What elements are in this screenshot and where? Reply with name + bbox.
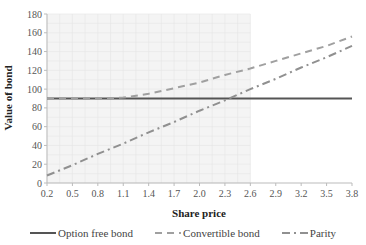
legend-item-parity: Parity	[282, 227, 336, 239]
svg-text:140: 140	[27, 46, 42, 57]
svg-text:60: 60	[32, 121, 42, 132]
svg-text:0.8: 0.8	[92, 188, 105, 199]
svg-text:80: 80	[32, 102, 42, 113]
x-axis-ticks: 0.20.50.81.11.41.72.02.32.62.93.23.53.8	[41, 183, 359, 199]
svg-text:20: 20	[32, 159, 42, 170]
svg-text:3.8: 3.8	[346, 188, 359, 199]
svg-text:3.5: 3.5	[320, 188, 333, 199]
svg-text:1.4: 1.4	[142, 188, 155, 199]
y-axis-ticks: 020406080100120140160180	[27, 9, 47, 189]
svg-text:40: 40	[32, 140, 42, 151]
legend-item-option-free-bond: Option free bond	[30, 227, 133, 239]
svg-text:0.5: 0.5	[66, 188, 79, 199]
x-axis-title: Share price	[172, 207, 226, 219]
svg-text:160: 160	[27, 27, 42, 38]
solid-line-swatch-icon	[30, 230, 56, 236]
svg-text:2.3: 2.3	[219, 188, 232, 199]
svg-text:100: 100	[27, 84, 42, 95]
svg-text:1.1: 1.1	[117, 188, 130, 199]
svg-text:180: 180	[27, 9, 42, 20]
svg-text:2.9: 2.9	[270, 188, 283, 199]
svg-text:1.7: 1.7	[168, 188, 181, 199]
dashed-line-swatch-icon	[155, 230, 181, 236]
legend-label: Convertible bond	[183, 227, 260, 239]
svg-text:0: 0	[37, 178, 42, 189]
legend-label: Option free bond	[58, 227, 133, 239]
svg-text:2.0: 2.0	[193, 188, 206, 199]
line-chart: 020406080100120140160180 0.20.50.81.11.4…	[0, 0, 366, 222]
svg-text:3.2: 3.2	[295, 188, 308, 199]
svg-text:2.6: 2.6	[244, 188, 257, 199]
legend-item-convertible-bond: Convertible bond	[155, 227, 260, 239]
dashdot-line-swatch-icon	[282, 230, 308, 236]
legend-label: Parity	[310, 227, 336, 239]
svg-text:120: 120	[27, 65, 42, 76]
legend: Option free bond Convertible bond Parity	[0, 224, 366, 242]
y-axis-title: Value of bond	[2, 65, 14, 130]
svg-text:0.2: 0.2	[41, 188, 54, 199]
